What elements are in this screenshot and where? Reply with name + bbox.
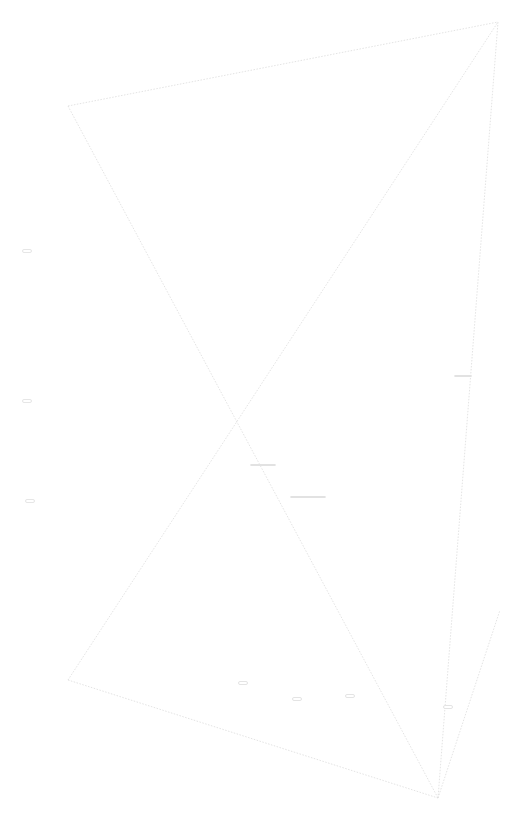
- z-tick-18: [22, 249, 32, 253]
- coord-label-1200-1200: [443, 705, 453, 709]
- chart-3d-scatter[interactable]: [0, 0, 526, 824]
- wireframe: [68, 22, 500, 798]
- coord-label-800-1700: [292, 697, 302, 701]
- point-label-4[interactable]: [250, 464, 276, 466]
- z-tick-8: [25, 499, 35, 503]
- point-label-6b[interactable]: [454, 375, 472, 377]
- z-tick-12: [22, 399, 32, 403]
- coord-label-830-2100: [238, 681, 248, 685]
- point-label-5[interactable]: [290, 496, 326, 498]
- coord-label-900-1600: [345, 694, 355, 698]
- plot-canvas: [0, 0, 526, 824]
